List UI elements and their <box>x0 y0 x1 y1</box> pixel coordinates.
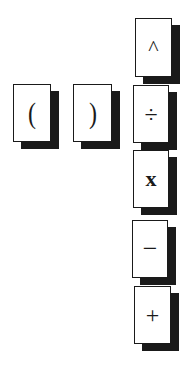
add-button[interactable]: + <box>134 286 171 344</box>
open-paren-label: ( <box>28 98 36 128</box>
divide-label: ÷ <box>144 102 157 126</box>
multiply-button[interactable]: x <box>133 150 169 208</box>
close-paren-button[interactable]: ) <box>73 84 112 142</box>
divide-button[interactable]: ÷ <box>133 85 169 143</box>
multiply-label: x <box>146 168 157 190</box>
subtract-label: − <box>143 236 158 262</box>
power-label: ^ <box>148 37 158 59</box>
subtract-button[interactable]: − <box>132 220 168 278</box>
close-paren-label: ) <box>89 98 97 128</box>
add-label: + <box>146 303 160 327</box>
open-paren-button[interactable]: ( <box>13 84 51 142</box>
power-button[interactable]: ^ <box>135 18 172 77</box>
